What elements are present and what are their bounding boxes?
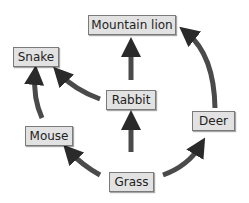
arrow-rabbit-to-snake	[60, 74, 100, 99]
node-grass: Grass	[109, 172, 154, 192]
node-deer: Deer	[192, 111, 235, 131]
arrow-grass-to-deer	[163, 146, 200, 175]
arrow-deer-to-mountain-lion	[187, 33, 215, 108]
arrow-mouse-to-snake	[35, 75, 42, 118]
arrow-grass-to-mouse	[70, 152, 100, 175]
node-mouse: Mouse	[25, 126, 73, 146]
node-snake: Snake	[13, 47, 59, 67]
node-rabbit: Rabbit	[106, 90, 156, 110]
node-mountain-lion: Mountain lion	[88, 15, 176, 35]
